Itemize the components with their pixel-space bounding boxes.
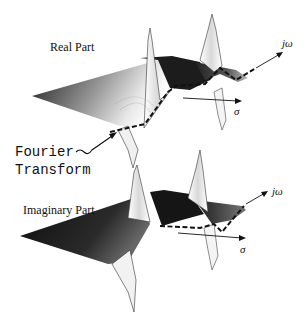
real-part-label: Real Part bbox=[50, 40, 94, 55]
fourier-label-line2: Transform bbox=[15, 162, 91, 178]
sigma-axis-label-top: σ bbox=[234, 105, 239, 117]
sigma-axis-label-bottom: σ bbox=[240, 243, 245, 255]
fourier-annotation-arrow bbox=[76, 132, 117, 154]
jw-axis-label-bottom: jω bbox=[272, 185, 283, 197]
jw-axis-label-top: jω bbox=[282, 37, 293, 49]
imaginary-part-label: Imaginary Part bbox=[23, 203, 95, 218]
fourier-label-line1: Fourier bbox=[15, 144, 74, 160]
